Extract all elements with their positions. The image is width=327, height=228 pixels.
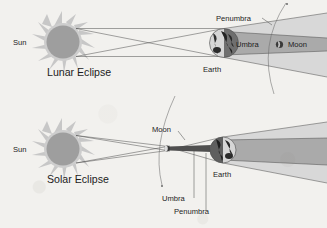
solar-eclipse-title: Solar Eclipse (47, 173, 109, 185)
earth-label-solar: Earth (213, 170, 231, 179)
sun-label-solar: Sun (13, 145, 27, 154)
sun-label-lunar: Sun (13, 38, 27, 47)
moon-label-lunar: Moon (288, 40, 307, 49)
penumbra-label-solar: Penumbra (174, 207, 210, 216)
sun-disc-solar (47, 133, 80, 166)
eclipse-diagram: Sun Earth (0, 0, 327, 228)
lunar-eclipse-title: Lunar Eclipse (47, 66, 111, 78)
sun-disc-lunar (47, 26, 80, 59)
orbit-arc-endpoint-lunar (286, 3, 288, 5)
umbra-label-solar: Umbra (162, 194, 186, 203)
earth-label-lunar: Earth (203, 65, 221, 74)
umbra-label-lunar: Umbra (236, 40, 260, 49)
penumbra-label-lunar: Penumbra (216, 14, 252, 23)
orbit-arc-endpoint-solar (161, 185, 163, 187)
moon-label-solar: Moon (152, 125, 171, 134)
